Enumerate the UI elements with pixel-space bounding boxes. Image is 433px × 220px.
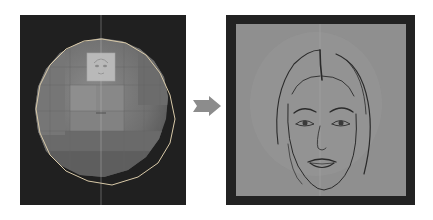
face-canvas-frame: Rendered face sketch on flat canvas: [226, 15, 415, 205]
face-canvas-label: Rendered face sketch on flat canvas: [226, 15, 227, 16]
sphere-mesh-illustration: [20, 15, 186, 205]
arrow-right-icon: [191, 96, 223, 116]
sphere-viewport: 3D sphere mesh with face texture patch: [20, 15, 186, 205]
face-canvas: [236, 24, 406, 196]
face-sketch-illustration: [236, 24, 406, 196]
